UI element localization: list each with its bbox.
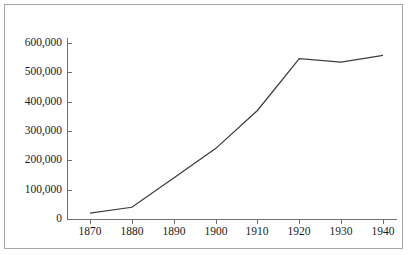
chart-plot-area: 0100,000200,000300,000400,000500,000600,… xyxy=(5,5,402,248)
chart-figure: 0100,000200,000300,000400,000500,000600,… xyxy=(4,4,403,249)
chart-canvas xyxy=(5,5,402,248)
data-series-line xyxy=(90,55,383,213)
